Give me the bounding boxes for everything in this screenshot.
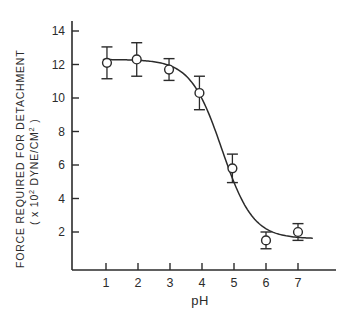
force-vs-ph-chart: 2468101214 1234567 pH FORCE REQUIRED FOR… xyxy=(0,0,344,320)
x-axis-tick-labels: 1234567 xyxy=(103,276,302,290)
data-point xyxy=(228,164,237,173)
x-tick-label: 4 xyxy=(199,276,206,290)
data-point xyxy=(103,58,112,67)
data-point xyxy=(262,236,271,245)
y-axis-tick-labels: 2468101214 xyxy=(52,24,66,239)
y-tick-label: 6 xyxy=(58,158,65,172)
x-tick-label: 5 xyxy=(231,276,238,290)
data-point xyxy=(294,228,303,237)
chart-figure: 2468101214 1234567 pH FORCE REQUIRED FOR… xyxy=(0,0,344,320)
y-tick-label: 14 xyxy=(52,24,66,38)
x-axis-label: pH xyxy=(191,293,209,308)
y-axis-label-line2: ( x 102 DYNE/CM2 ) xyxy=(27,119,41,225)
x-tick-label: 2 xyxy=(135,276,142,290)
y-axis-label-line1: FORCE REQUIRED FOR DETACHMENT xyxy=(14,50,26,268)
y-axis-label: FORCE REQUIRED FOR DETACHMENT ( x 102 DY… xyxy=(14,50,40,268)
y-axis-ticks xyxy=(72,31,79,232)
x-axis-ticks xyxy=(106,263,298,270)
y-tick-label: 10 xyxy=(52,91,66,105)
y-tick-label: 2 xyxy=(58,225,65,239)
fitted-curve xyxy=(103,60,312,239)
x-tick-label: 6 xyxy=(263,276,270,290)
y-tick-label: 4 xyxy=(58,192,65,206)
x-tick-label: 1 xyxy=(103,276,110,290)
x-tick-label: 7 xyxy=(295,276,302,290)
data-point-markers xyxy=(103,55,303,245)
y-tick-label: 12 xyxy=(52,58,66,72)
data-point xyxy=(195,89,204,98)
x-tick-label: 3 xyxy=(167,276,174,290)
y-tick-label: 8 xyxy=(58,125,65,139)
error-bars xyxy=(101,43,303,249)
data-point xyxy=(165,65,174,74)
data-point xyxy=(132,55,141,64)
x-axis-label-text: pH xyxy=(191,293,209,308)
